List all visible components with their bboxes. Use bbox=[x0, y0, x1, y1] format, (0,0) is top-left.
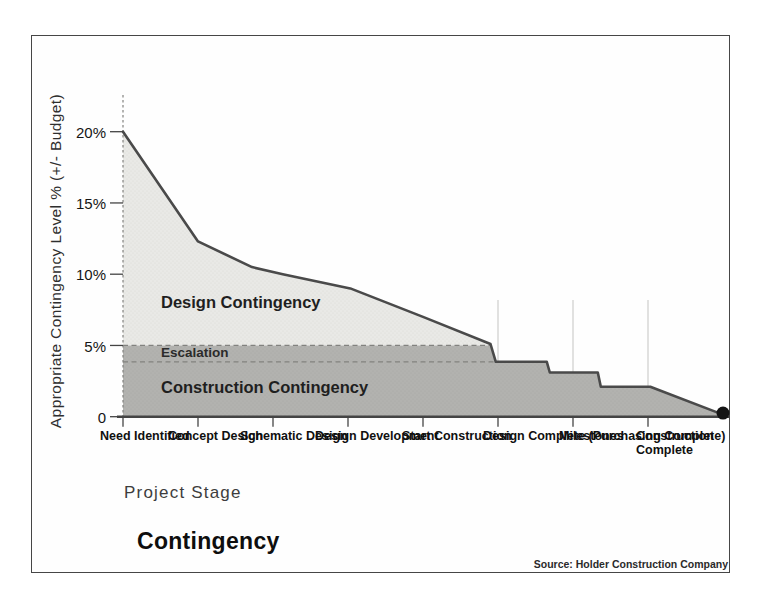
y-tick-label-5: 5% bbox=[60, 338, 106, 355]
contingency-plot bbox=[0, 0, 764, 610]
contingency-figure: Appropriate Contingency Level % (+/- Bud… bbox=[0, 0, 764, 610]
y-tick-label-10: 10% bbox=[60, 266, 106, 283]
project-end-marker-dot bbox=[717, 407, 730, 420]
design-contingency-area bbox=[123, 132, 491, 346]
figure-title: Contingency bbox=[137, 528, 280, 555]
escalation-label: Escalation bbox=[161, 345, 229, 360]
y-tick-label-20: 20% bbox=[60, 124, 106, 141]
source-credit: Source: Holder Construction Company bbox=[534, 558, 728, 570]
construction-contingency-label: Construction Contingency bbox=[161, 378, 368, 397]
y-tick-label-0: 0 bbox=[60, 409, 106, 426]
y-axis-tick-marks bbox=[110, 132, 123, 417]
design-contingency-label: Design Contingency bbox=[161, 293, 321, 312]
x-axis-title: Project Stage bbox=[124, 483, 242, 503]
x-axis-tick-marks bbox=[123, 417, 648, 427]
x-label-milestones: Milestones bbox=[559, 429, 624, 443]
y-tick-label-15: 15% bbox=[60, 195, 106, 212]
x-label-construction-complete: Construction Complete bbox=[636, 429, 764, 457]
